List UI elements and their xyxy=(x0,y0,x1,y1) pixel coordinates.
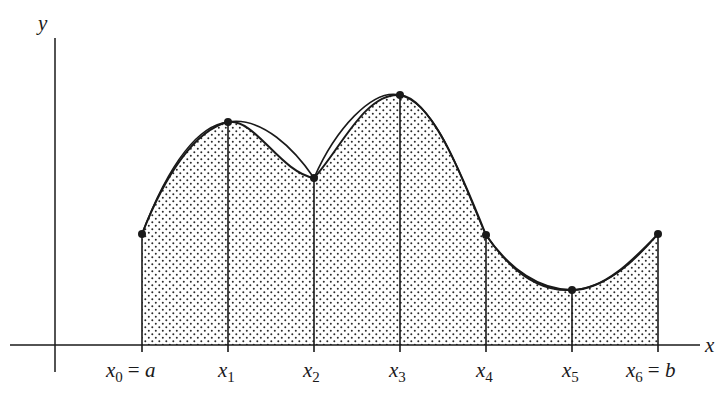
partition-labels: x0= a x1 x2 x3 x4 x5 x6= b xyxy=(105,358,675,385)
x-axis-label: x xyxy=(704,333,715,357)
label-x4: x4 xyxy=(475,358,493,385)
label-x5: x5 xyxy=(561,358,579,385)
point-x4 xyxy=(482,231,490,239)
point-x6 xyxy=(654,230,662,238)
point-x1 xyxy=(224,118,232,126)
simpsons-rule-diagram: y x x0= a x1 x2 x3 x4 x5 x6= b xyxy=(0,0,718,393)
point-x0 xyxy=(138,230,146,238)
point-x2 xyxy=(310,174,318,182)
label-x1: x1 xyxy=(217,358,235,385)
label-x2: x2 xyxy=(302,358,320,385)
label-x3: x3 xyxy=(388,358,406,385)
y-axis-label: y xyxy=(36,11,48,35)
point-x3 xyxy=(396,91,404,99)
point-x5 xyxy=(568,286,576,294)
label-x6: x6= b xyxy=(625,358,675,385)
label-x0: x0= a xyxy=(105,358,155,385)
